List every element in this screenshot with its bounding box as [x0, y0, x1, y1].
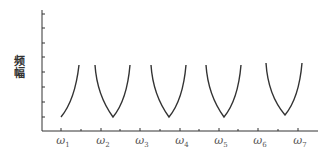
x-tick-label-5: ω5: [214, 134, 227, 149]
x-tick-label-6: ω6: [253, 134, 266, 149]
x-tick-label-2: ω2: [96, 134, 109, 149]
curve-segment-2: [95, 65, 130, 117]
y-axis-label: 频幅: [12, 56, 26, 80]
curves: [61, 63, 302, 117]
curve-segment-1: [61, 65, 79, 117]
y-axis: [42, 10, 45, 131]
x-tick-label-3: ω3: [135, 134, 148, 149]
x-tick-label-1: ω1: [56, 134, 69, 149]
chart-canvas: [0, 0, 333, 153]
x-tick-label-4: ω4: [175, 134, 188, 149]
x-tick-label-7: ω7: [293, 134, 306, 149]
curve-segment-4: [206, 65, 241, 117]
x-axis: [42, 128, 318, 131]
curve-segment-5: [266, 63, 302, 115]
curve-segment-3: [151, 65, 186, 117]
